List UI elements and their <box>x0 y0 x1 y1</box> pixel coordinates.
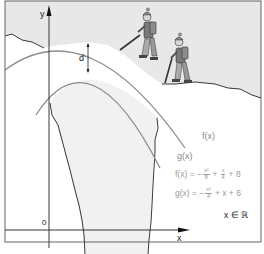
formula-g: g(x) = − x² 4 + x + 6 <box>175 187 241 199</box>
formula-f-plus: + <box>213 169 218 179</box>
formula-g-lhs: g(x) = − <box>175 188 204 198</box>
formula-f-term1: x² 8 <box>203 168 210 180</box>
formula-f: f(x) = − x² 8 + x 4 + 8 <box>175 168 241 180</box>
curve-f-label: f(x) <box>202 131 215 141</box>
x-axis-label: x <box>177 233 182 243</box>
formula-g-term1: x² 4 <box>205 187 212 199</box>
curve-g-label: g(x) <box>177 151 193 161</box>
formula-f-tail: + 8 <box>229 169 241 179</box>
domain-label: x ∈ ℝ <box>224 210 248 220</box>
y-axis-label: y <box>40 9 45 19</box>
origin-label: 0 <box>42 218 46 228</box>
formula-f-term2: x 4 <box>221 168 226 180</box>
distance-d-label: d <box>79 53 84 63</box>
formula-f-lhs: f(x) = − <box>175 169 202 179</box>
formula-g-tail: + x + 6 <box>215 188 241 198</box>
